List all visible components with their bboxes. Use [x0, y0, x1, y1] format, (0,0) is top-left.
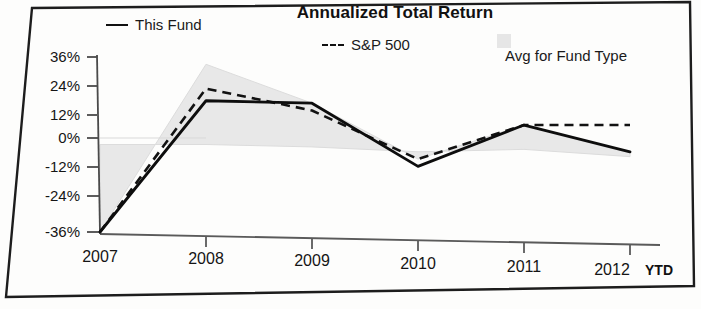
y-tick-label-neg36: -36% [20, 223, 80, 240]
x-tick-label-2010: 2010 [383, 255, 453, 273]
x-tick-label-2012: 2012 [577, 261, 647, 279]
x-axis-ticks [206, 236, 630, 255]
x-tick-label-2008: 2008 [171, 250, 241, 268]
x-tick-label-2011: 2011 [489, 258, 559, 276]
x-tick-label-2009: 2009 [277, 252, 347, 270]
y-tick-label-24: 24% [20, 77, 80, 94]
y-tick-label-36: 36% [20, 48, 80, 65]
avg-fund-type-band [100, 64, 630, 232]
x-tick-label-ytd: YTD [645, 262, 673, 278]
x-tick-label-2007: 2007 [65, 248, 135, 266]
y-tick-label-0: 0% [20, 129, 80, 146]
y-tick-label-neg12: -12% [20, 158, 80, 175]
x-axis-line [100, 234, 660, 245]
y-tick-label-neg24: -24% [20, 187, 80, 204]
y-tick-label-12: 12% [20, 106, 80, 123]
annualized-total-return-chart-card: Annualized Total Return This Fund S&P 50… [0, 0, 701, 309]
